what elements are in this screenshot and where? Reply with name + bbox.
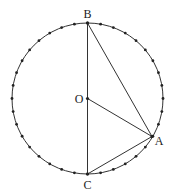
- circle-dot: [73, 171, 76, 174]
- vertex-points: [86, 21, 154, 175]
- circle-dot: [28, 49, 31, 52]
- circle-dot: [157, 123, 160, 126]
- circle-dot: [160, 84, 163, 87]
- circle-dot: [162, 97, 165, 100]
- point-O: [86, 97, 89, 100]
- point-C: [86, 172, 89, 175]
- circle-dot: [151, 59, 154, 62]
- circle-dot: [99, 23, 102, 26]
- circle-dot: [99, 171, 102, 174]
- label-A: A: [155, 134, 164, 148]
- label-C: C: [83, 178, 91, 192]
- circle-dot: [21, 135, 24, 138]
- circle-dot: [135, 155, 138, 158]
- circle-dot: [135, 39, 138, 42]
- segments: [88, 23, 153, 174]
- circle-dot: [112, 168, 115, 171]
- circle-dot: [144, 49, 147, 52]
- segment-CA: [88, 137, 153, 175]
- circle-dot: [12, 84, 15, 87]
- circle-dot: [21, 59, 24, 62]
- label-B: B: [83, 7, 91, 21]
- circle-dot: [124, 162, 127, 165]
- circle-dot: [144, 146, 147, 149]
- circle-dot: [48, 32, 51, 35]
- circle-dot: [60, 26, 63, 29]
- circle-dot: [15, 123, 18, 126]
- circle-dot: [12, 110, 15, 113]
- circle-dot: [112, 26, 115, 29]
- circle-dot: [38, 39, 41, 42]
- circle-dot: [73, 23, 76, 26]
- point-A: [150, 135, 153, 138]
- geometry-diagram: A B C O A: [0, 0, 172, 195]
- circle-dot: [15, 71, 18, 74]
- circle-dot: [124, 32, 127, 35]
- segment-BA: [88, 23, 153, 137]
- point-B: [86, 21, 89, 24]
- circle-dot: [48, 162, 51, 165]
- circle-dot: [60, 168, 63, 171]
- circle-dot: [157, 71, 160, 74]
- circle-dot: [28, 146, 31, 149]
- circle-dot: [160, 110, 163, 113]
- circle-dot: [38, 155, 41, 158]
- circle-dot: [11, 97, 14, 100]
- segment-OA: [88, 99, 153, 137]
- label-O: O: [75, 92, 84, 106]
